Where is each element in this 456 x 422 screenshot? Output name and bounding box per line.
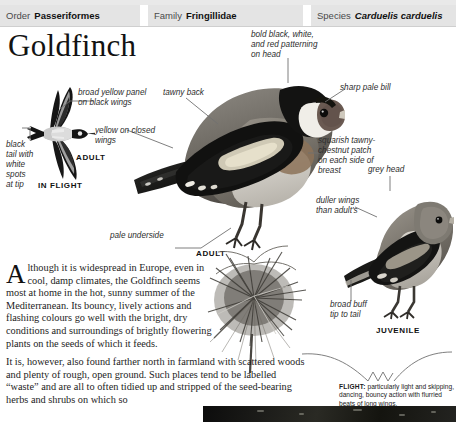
order-label: Order bbox=[6, 10, 30, 21]
annotation-pale-underside: pale underside bbox=[110, 231, 180, 241]
caption-juvenile: JUVENILE bbox=[376, 326, 420, 335]
flight-path-diagram bbox=[300, 348, 455, 380]
bird-guide-page: Order Passeriformes Family Fringillidae … bbox=[0, 0, 456, 422]
annotation-yellow-closed-wings: yellow on closed wings bbox=[95, 126, 177, 146]
family-label: Family bbox=[154, 10, 182, 21]
annotation-duller-wings: duller wings than adult's bbox=[316, 196, 378, 216]
flight-caption-label: FLIGHT: bbox=[339, 383, 366, 390]
flight-caption: FLIGHT: particularly light and skipping,… bbox=[339, 383, 456, 408]
order-value: Passeriformes bbox=[34, 10, 99, 21]
teasel-plant-illustration bbox=[196, 238, 316, 373]
annotation-bold-head: bold black, white, and red patterning on… bbox=[251, 30, 347, 60]
caption-in-flight: IN FLIGHT bbox=[38, 181, 83, 190]
annotation-sharp-pale-bill: sharp pale bill bbox=[340, 83, 420, 93]
article-paragraph-wide: It is, however, also found farther north… bbox=[6, 356, 306, 406]
annotation-tawny-back: tawny back bbox=[163, 88, 233, 98]
header-divider bbox=[0, 26, 456, 27]
article-text-narrow: lthough it is widespread in Europe, even… bbox=[6, 262, 212, 349]
species-label: Species bbox=[317, 10, 351, 21]
annotation-broad-buff-tip: broad buff tip to tail bbox=[330, 300, 396, 320]
article-paragraph-narrow: Although it is widespread in Europe, eve… bbox=[6, 262, 212, 350]
drop-cap: A bbox=[6, 262, 28, 285]
caption-adult-flight: ADULT bbox=[76, 153, 106, 162]
page-title: Goldfinch bbox=[8, 30, 136, 61]
family-value: Fringillidae bbox=[186, 10, 237, 21]
annotation-grey-head: grey head bbox=[368, 165, 428, 175]
taxonomy-species-cell: Species Carduelis carduelis bbox=[311, 5, 456, 26]
species-value: Carduelis carduelis bbox=[355, 10, 443, 21]
bottom-photo-strip bbox=[203, 406, 456, 422]
taxonomy-family-cell: Family Fringillidae bbox=[148, 5, 303, 26]
taxonomy-header: Order Passeriformes Family Fringillidae … bbox=[0, 0, 456, 26]
taxonomy-order-cell: Order Passeriformes bbox=[0, 5, 140, 26]
